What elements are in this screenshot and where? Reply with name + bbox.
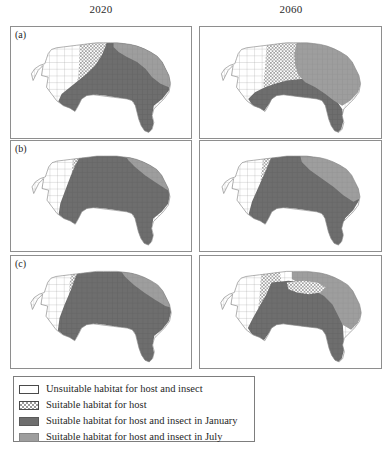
map-a-2020 [11, 27, 191, 138]
legend-label-january: Suitable habitat for host and insect in … [46, 415, 238, 427]
figure-legend: Unsuitable habitat for host and insect S… [13, 376, 255, 442]
legend-item-january: Suitable habitat for host and insect in … [19, 413, 254, 429]
column-header-row: 2020 2060 [10, 3, 382, 19]
map-panel-a-2060 [199, 26, 382, 139]
map-panel-b-2020: (b) [10, 140, 192, 252]
map-b-2060 [200, 141, 381, 251]
map-panel-c-2020: (c) [10, 255, 192, 369]
map-b-2020 [11, 141, 191, 251]
legend-item-host: Suitable habitat for host [19, 397, 254, 413]
panel-label-c: (c) [15, 258, 26, 269]
legend-item-unsuitable: Unsuitable habitat for host and insect [19, 381, 254, 397]
map-a-2060 [200, 27, 381, 138]
legend-label-host: Suitable habitat for host [46, 399, 147, 411]
column-header-2020: 2020 [10, 3, 192, 15]
map-c-2020 [11, 256, 191, 368]
map-c-2060 [200, 256, 381, 368]
habitat-suitability-figure: 2020 2060 [0, 0, 392, 453]
legend-label-july: Suitable habitat for host and insect in … [46, 431, 222, 443]
stipple-hatch-swatch-icon [19, 401, 39, 410]
white-outline-swatch-icon [19, 385, 39, 394]
map-panel-a-2020: (a) [10, 26, 192, 139]
legend-label-unsuitable: Unsuitable habitat for host and insect [46, 383, 203, 395]
panel-label-b: (b) [15, 143, 27, 154]
legend-item-july: Suitable habitat for host and insect in … [19, 429, 254, 445]
dark-gray-swatch-icon [19, 417, 39, 426]
panel-label-a: (a) [15, 29, 26, 40]
light-gray-swatch-icon [19, 433, 39, 442]
column-header-2060: 2060 [200, 3, 382, 15]
map-panel-b-2060 [199, 140, 382, 252]
map-panel-c-2060 [199, 255, 382, 369]
